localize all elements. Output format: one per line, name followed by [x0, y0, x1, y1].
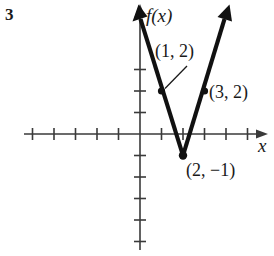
x-axis-label: x [258, 136, 266, 155]
y-axis-label: f(x) [146, 6, 172, 25]
point-2-neg1 [179, 151, 187, 159]
point-3-2 [201, 87, 208, 94]
problem-number: 3 [5, 6, 14, 23]
curve-right-arrowhead [218, 5, 233, 22]
leader-line-point-1 [165, 66, 187, 89]
point-label-1-2: (1, 2) [155, 42, 194, 60]
point-label-3-2: (3, 2) [209, 83, 248, 101]
point-1-2 [158, 87, 165, 94]
figure-root: 3 f(x) x (1, 2) (3, 2) (2, −1) [0, 0, 274, 256]
coordinate-graph [0, 0, 274, 256]
point-label-vertex: (2, −1) [186, 161, 235, 179]
